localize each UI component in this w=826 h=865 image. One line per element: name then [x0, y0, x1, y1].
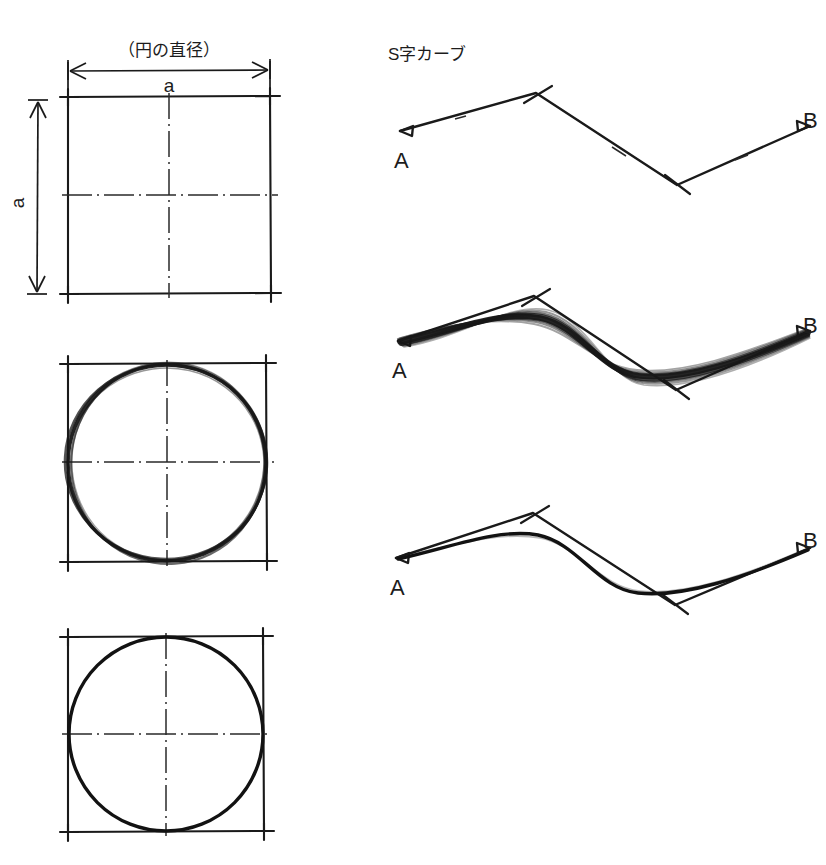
s-curve-caption: S字カーブ — [388, 44, 466, 64]
point-a-label-1: A — [394, 148, 409, 173]
left-step-1-square — [60, 88, 281, 303]
sketch-diagram-page: （円の直径） a a — [0, 0, 826, 865]
point-b-label-1: B — [803, 108, 818, 133]
left-step-2-rough-circle — [55, 346, 281, 577]
point-b-label-3: B — [803, 528, 818, 553]
top-dimension: a — [68, 59, 270, 97]
left-step-3-final-circle — [60, 628, 274, 841]
right-step-2-rough-curve: A B — [392, 289, 818, 399]
rough-circle-strokes — [55, 346, 281, 577]
right-step-3-final-curve: A B — [390, 506, 818, 614]
circle-diameter-caption: （円の直径） — [118, 41, 220, 60]
point-a-label-3: A — [390, 575, 405, 600]
final-s-curve — [398, 533, 808, 593]
left-dimension: a — [7, 100, 48, 294]
right-step-1-guideline: A B — [394, 86, 818, 194]
point-a-label-2: A — [392, 358, 407, 383]
top-dimension-label: a — [164, 75, 175, 96]
left-dimension-label: a — [7, 197, 28, 208]
diagram-canvas: （円の直径） a a — [0, 0, 826, 865]
point-b-label-2: B — [803, 313, 818, 338]
